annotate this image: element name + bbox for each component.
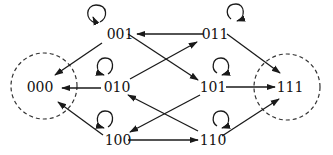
node-011: 011 <box>202 26 229 42</box>
self-loop-010 <box>97 58 112 75</box>
node-000: 000 <box>27 79 54 95</box>
node-111: 111 <box>277 79 304 95</box>
edge-110-111 <box>222 99 279 136</box>
node-110: 110 <box>200 132 227 148</box>
edge-001-101 <box>128 34 198 80</box>
state-diagram: 000 001 010 011 100 101 110 111 <box>0 0 333 155</box>
node-010: 010 <box>104 79 131 95</box>
node-100: 100 <box>105 132 132 148</box>
edge-011-111 <box>227 34 280 73</box>
self-loop-001 <box>88 5 106 23</box>
node-001: 001 <box>107 26 134 42</box>
edge-100-000 <box>58 102 103 135</box>
self-loop-011 <box>227 4 243 21</box>
edge-110-010 <box>128 95 198 131</box>
self-loop-110 <box>213 111 228 128</box>
self-loop-100 <box>97 111 112 128</box>
node-101: 101 <box>200 79 227 95</box>
self-loop-101 <box>213 58 228 75</box>
diagram-svg: 000 001 010 011 100 101 110 111 <box>0 0 333 155</box>
edge-001-000 <box>55 43 102 75</box>
